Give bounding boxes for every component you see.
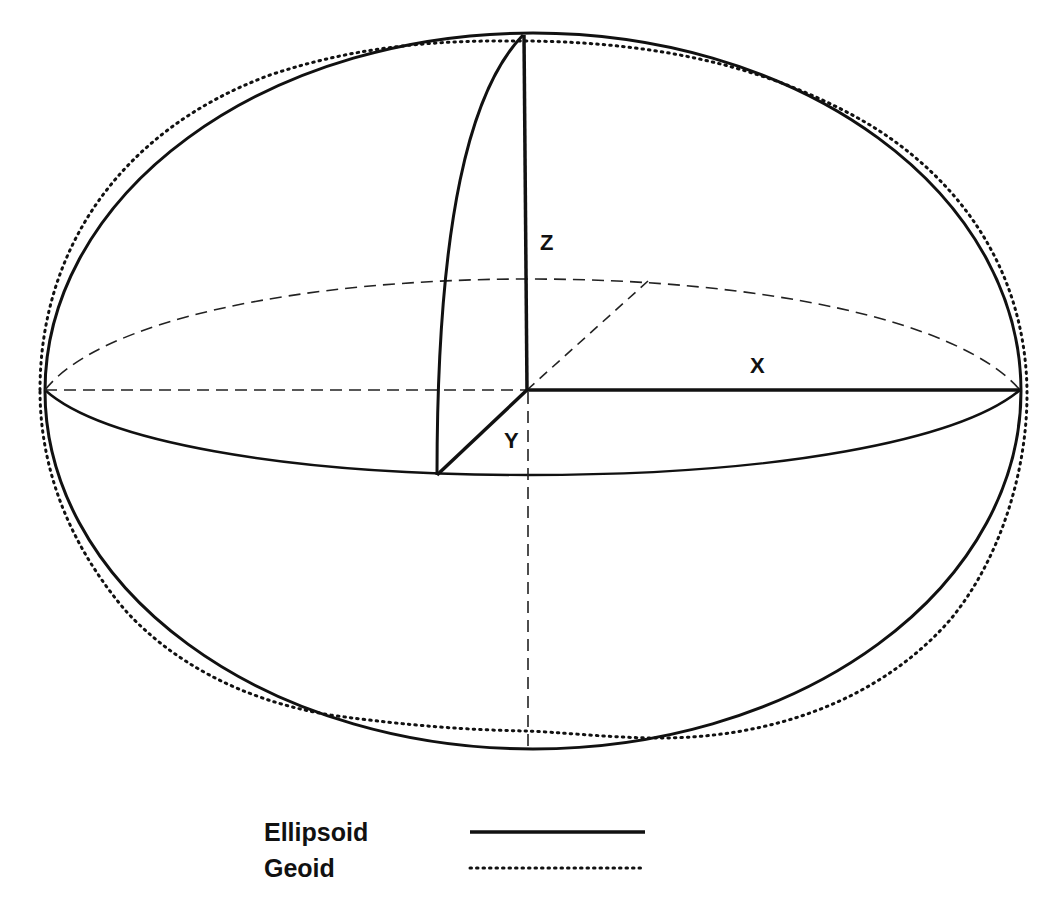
legend-geoid-label: Geoid bbox=[264, 856, 335, 881]
z-axis-label: Z bbox=[540, 232, 553, 254]
y-axis-negative bbox=[527, 281, 648, 390]
ellipsoid-geoid-diagram bbox=[0, 0, 1040, 902]
equator-back bbox=[45, 279, 1020, 390]
x-axis-label: X bbox=[750, 355, 765, 377]
y-axis-label: Y bbox=[504, 430, 519, 452]
meridian-arc bbox=[437, 35, 523, 475]
legend-ellipsoid-label: Ellipsoid bbox=[264, 820, 368, 845]
z-axis bbox=[524, 35, 527, 390]
equator-front bbox=[45, 390, 1020, 475]
